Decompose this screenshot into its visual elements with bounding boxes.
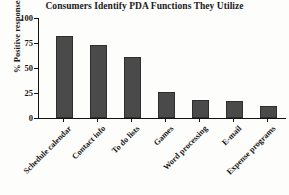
x-tick-mark [63,118,64,122]
bar [90,45,107,118]
y-tick-mark [34,118,39,119]
x-axis-line [38,118,286,119]
bar [56,36,73,118]
plot-area: 0255075100 [38,18,286,118]
y-tick-label: 25 [25,88,34,98]
bar-series [39,18,286,118]
y-tick-label: 50 [25,63,34,73]
chart-title: Consumers Identify PDA Functions They Ut… [0,1,289,11]
bar [124,57,141,118]
x-tick-mark [199,118,200,122]
bar-chart: Consumers Identify PDA Functions They Ut… [0,0,289,195]
bar [158,92,175,118]
x-tick-mark [165,118,166,122]
y-tick-label: 100 [20,13,33,23]
x-tick-mark [97,118,98,122]
x-tick-label: Schedule calendar [0,124,73,195]
bar [192,100,209,118]
x-tick-mark [233,118,234,122]
bar [260,106,277,118]
x-tick-mark [267,118,268,122]
x-tick-mark [131,118,132,122]
bar [226,101,243,118]
y-tick-label: 75 [25,38,34,48]
y-tick-label: 0 [29,113,33,123]
